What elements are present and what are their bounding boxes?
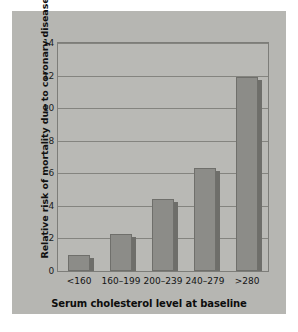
chart-figure: 02468101214 Relative risk of mortality d…	[12, 11, 286, 314]
y-axis-tick-label: 0	[28, 266, 54, 276]
bar-series	[58, 43, 268, 271]
bar-3d-side	[132, 237, 136, 271]
bar	[194, 168, 216, 271]
bar-slot	[236, 43, 258, 271]
bar-3d-side	[258, 80, 262, 271]
y-axis-title: Relative risk of mortality due to corona…	[39, 41, 50, 259]
bar-slot	[194, 43, 216, 271]
bar-3d-side	[216, 171, 220, 271]
bar-3d-side	[90, 258, 94, 271]
x-axis-tick-label: >280	[235, 276, 260, 286]
x-axis-tick-label: 160–199	[102, 276, 141, 286]
bar-slot	[68, 43, 90, 271]
x-axis-tick-label: 240–279	[186, 276, 225, 286]
bar	[68, 255, 90, 271]
x-axis-title: Serum cholesterol level at baseline	[12, 298, 286, 309]
x-axis-tick-label: <160	[67, 276, 92, 286]
bar	[152, 199, 174, 271]
bar	[236, 77, 258, 271]
bar	[110, 234, 132, 271]
bar-slot	[152, 43, 174, 271]
x-axis-tick-label: 200–239	[144, 276, 183, 286]
bar-3d-side	[174, 202, 178, 271]
bar-slot	[110, 43, 132, 271]
x-axis-tick-labels: <160160–199200–239240–279>280	[52, 276, 274, 292]
